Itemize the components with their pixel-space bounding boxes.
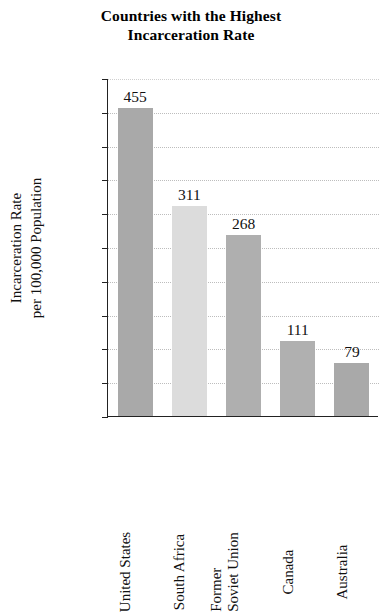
bar (334, 363, 369, 416)
y-axis-title-line-2: per 100,000 Population (26, 178, 46, 318)
x-axis-label-line: United States (117, 532, 134, 612)
y-axis-tick (102, 147, 108, 148)
x-axis-label: Australia (324, 422, 378, 572)
bar-value-label: 455 (123, 89, 146, 105)
bar-value-label: 311 (178, 187, 201, 203)
x-axis-label: FormerSoviet Union (215, 422, 269, 572)
y-axis-tick (102, 316, 108, 317)
plot-inner: 0501001502002503003504004505004553112681… (108, 79, 378, 416)
y-axis-tick (102, 282, 108, 283)
bar (280, 341, 315, 416)
gridline (108, 417, 379, 418)
bar-value-label: 79 (344, 344, 360, 360)
y-axis-tick (102, 113, 108, 114)
x-axis-label-line: Former (208, 532, 225, 612)
y-axis-tick (102, 383, 108, 384)
x-axis-labels: United StatesSouth AfricaFormerSoviet Un… (107, 420, 378, 572)
plot-area: 0501001502002503003504004505004553112681… (107, 79, 378, 417)
y-axis-tick (102, 349, 108, 350)
x-axis-label-line: Australia (334, 545, 351, 600)
x-axis-label: Canada (270, 422, 324, 572)
y-axis-tick (102, 214, 108, 215)
bar (172, 206, 207, 416)
bar-value-label: 268 (232, 216, 255, 232)
bar (118, 108, 153, 416)
bar-value-label: 111 (287, 322, 309, 338)
chart-title-line-2: Incarceration Rate (0, 25, 382, 44)
plot-top-edge (108, 79, 379, 80)
x-axis-label-line: South Africa (171, 534, 188, 610)
chart-title: Countries with the Highest Incarceration… (0, 6, 382, 44)
y-axis-title: Incarceration Rate per 100,000 Populatio… (6, 79, 46, 417)
bar (226, 235, 261, 416)
x-axis-label: United States (107, 422, 161, 572)
x-axis-label-line: Canada (280, 550, 297, 595)
y-axis-title-line-1: Incarceration Rate (6, 178, 26, 318)
x-axis-label-line: Soviet Union (225, 532, 242, 612)
y-axis-tick (102, 417, 108, 418)
chart-title-line-1: Countries with the Highest (0, 6, 382, 25)
y-axis-tick (102, 180, 108, 181)
y-axis-tick (102, 248, 108, 249)
